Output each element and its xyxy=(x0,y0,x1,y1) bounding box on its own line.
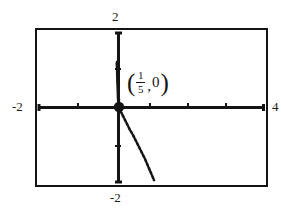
annotation-comma: , xyxy=(147,79,151,95)
annotation-close-paren: ) xyxy=(161,73,169,93)
x-intercept-annotation: ( 1 5 , 0 ) xyxy=(127,70,169,95)
x-axis-min-label: -2 xyxy=(12,100,23,113)
annotation-y-value: 0 xyxy=(152,75,160,90)
x-intercept-point-marker xyxy=(114,102,124,112)
plot-curve-asymptote-segment xyxy=(117,63,118,100)
fraction-one-fifth: 1 5 xyxy=(136,70,145,95)
annotation-open-paren: ( xyxy=(127,73,135,93)
y-axis-min-label: -2 xyxy=(110,191,121,204)
graph-figure: 2 -2 -2 4 ( 1 5 , 0 ) xyxy=(0,0,281,215)
fraction-denominator: 5 xyxy=(137,83,145,95)
y-axis-max-label: 2 xyxy=(112,10,119,23)
plot-canvas xyxy=(0,0,281,215)
fraction-numerator: 1 xyxy=(137,70,145,82)
x-axis-max-label: 4 xyxy=(272,100,279,113)
